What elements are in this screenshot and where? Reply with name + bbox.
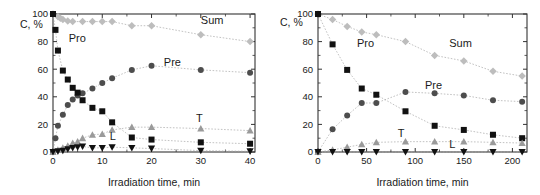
series-label-t: T [196, 112, 203, 124]
datapoint-pre [109, 75, 115, 81]
datapoint-pre [65, 102, 71, 108]
datapoint-l [148, 146, 155, 153]
datapoint-sum [79, 18, 87, 26]
datapoint-pro [344, 67, 350, 73]
datapoint-pro [432, 123, 438, 129]
chart-panel-left: 020406080100010203040ProSumPreTLC, %Irra… [0, 0, 270, 195]
datapoint-sum [99, 18, 107, 26]
datapoint-t [128, 124, 135, 131]
datapoint-t [148, 124, 155, 131]
datapoint-pro [247, 141, 253, 147]
datapoint-pre [70, 97, 76, 103]
datapoint-sum [329, 16, 337, 24]
y-tick-label: 20 [302, 119, 313, 130]
datapoint-pro [330, 41, 336, 47]
datapoint-pre [402, 89, 408, 95]
datapoint-pro [55, 48, 61, 54]
x-tick-label: 200 [504, 155, 520, 166]
x-axis-title: Irradiation time, min [376, 176, 468, 188]
datapoint-pre [198, 67, 204, 73]
datapoint-pro [52, 27, 58, 33]
datapoint-sum [89, 18, 97, 26]
datapoint-pre [129, 67, 135, 73]
chart-panel-right: 020406080100050100150200ProSumPreTLC, %I… [270, 0, 540, 195]
datapoint-sum [108, 18, 116, 26]
datapoint-t [197, 125, 204, 132]
datapoint-pro [50, 11, 56, 17]
x-tick-label: 10 [97, 155, 108, 166]
datapoint-pro [109, 119, 115, 125]
series-label-pro: Pro [69, 32, 86, 44]
x-tick-label: 0 [50, 155, 55, 166]
y-tick-label: 80 [302, 36, 313, 47]
y-tick-label: 20 [37, 119, 48, 130]
datapoint-sum [246, 38, 254, 46]
datapoint-pro [99, 108, 105, 114]
series-label-pre: Pre [164, 56, 181, 68]
figure-root: 020406080100010203040ProSumPreTLC, %Irra… [0, 0, 540, 195]
series-label-sum: Sum [201, 14, 224, 26]
y-axis-title: C, % [20, 18, 43, 30]
datapoint-pro [80, 97, 86, 103]
x-tick-label: 20 [146, 155, 157, 166]
datapoint-pro [129, 135, 135, 141]
datapoint-t [99, 130, 106, 137]
datapoint-pro [359, 86, 365, 92]
datapoint-sum [431, 52, 439, 60]
datapoint-pre [60, 112, 66, 118]
datapoint-pro [89, 105, 95, 111]
datapoint-pre [247, 70, 253, 76]
series-label-sum: Sum [449, 37, 472, 49]
y-tick-label: 60 [302, 64, 313, 75]
datapoint-pro [75, 90, 81, 96]
datapoint-pre [344, 112, 350, 118]
datapoint-pre [359, 100, 365, 106]
datapoint-pre [519, 99, 525, 105]
x-tick-label: 150 [456, 155, 472, 166]
datapoint-pro [149, 137, 155, 143]
plot-frame [318, 14, 527, 152]
series-label-t: T [398, 127, 405, 139]
datapoint-pro [402, 108, 408, 114]
y-axis-title: C, % [280, 16, 303, 28]
datapoint-sum [343, 23, 351, 31]
datapoint-pre [432, 90, 438, 96]
y-tick-label: 0 [43, 146, 48, 157]
datapoint-pre [149, 63, 155, 69]
datapoint-sum [489, 68, 497, 76]
series-label-l: L [449, 138, 455, 150]
datapoint-pro [198, 139, 204, 145]
series-pro [315, 11, 525, 141]
chart-left-svg: 020406080100010203040ProSumPreTLC, %Irra… [0, 0, 270, 195]
y-tick-label: 40 [302, 91, 313, 102]
datapoint-pro [461, 127, 467, 133]
datapoint-pro [490, 132, 496, 138]
axis-ticks [318, 14, 527, 152]
series-label-l: L [110, 130, 116, 142]
x-tick-label: 40 [245, 155, 256, 166]
y-tick-label: 60 [37, 64, 48, 75]
series-label-pre: Pre [425, 79, 442, 91]
datapoint-sum [358, 28, 366, 35]
datapoint-pre [99, 80, 105, 86]
datapoint-pre [373, 100, 379, 106]
datapoint-sum [197, 31, 205, 39]
x-tick-label: 100 [407, 155, 423, 166]
datapoint-t [358, 141, 365, 148]
x-axis-title: Irradiation time, min [108, 176, 200, 188]
datapoint-sum [128, 22, 136, 30]
datapoint-pro [315, 11, 321, 17]
datapoint-pro [65, 77, 71, 83]
datapoint-pro [60, 68, 66, 74]
datapoint-l [128, 145, 135, 152]
datapoint-pre [89, 86, 95, 92]
datapoint-pre [461, 92, 467, 98]
datapoint-sum [148, 22, 156, 30]
datapoint-sum [460, 57, 468, 65]
x-tick-label: 0 [315, 155, 320, 166]
datapoint-t [79, 135, 86, 142]
y-tick-label: 0 [308, 146, 313, 157]
datapoint-pre [55, 123, 61, 129]
datapoint-sum [518, 72, 526, 80]
x-tick-label: 30 [196, 155, 207, 166]
